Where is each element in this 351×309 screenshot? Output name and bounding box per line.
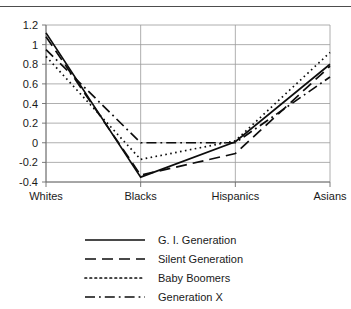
y-tick-label: 0.8 [23,58,38,70]
x-axis-tick-labels: WhitesBlacksHispanicsAsians [29,190,347,202]
legend-label-g-i-generation: G. I. Generation [158,234,236,246]
y-axis-tick-labels: -0.4-0.200.20.40.60.811.2 [19,19,38,188]
header-divider [0,6,351,7]
y-tick-label: 1.2 [23,19,38,31]
chart-canvas: -0.4-0.200.20.40.60.811.2 WhitesBlacksHi… [0,0,351,309]
legend-label-baby-boomers: Baby Boomers [158,272,231,284]
series-line-generation-x [46,50,330,143]
line-chart: -0.4-0.200.20.40.60.811.2 WhitesBlacksHi… [0,0,351,309]
gridlines [46,25,330,182]
data-series-group [46,33,330,177]
y-tick-label: -0.2 [19,156,38,168]
series-line-g-i-generation [46,33,330,177]
x-tick-label-asians: Asians [313,190,347,202]
chart-legend: G. I. GenerationSilent GenerationBaby Bo… [85,234,243,303]
y-tick-label: 0.4 [23,98,38,110]
y-tick-label: -0.4 [19,176,38,188]
y-tick-label: 1 [32,39,38,51]
y-tick-label: 0.2 [23,117,38,129]
x-tick-label-whites: Whites [29,190,63,202]
y-tick-label: 0 [32,137,38,149]
legend-label-silent-generation: Silent Generation [158,253,243,265]
x-tick-label-blacks: Blacks [124,190,157,202]
legend-label-generation-x: Generation X [158,291,223,303]
x-tick-label-hispanics: Hispanics [211,190,259,202]
y-tick-label: 0.6 [23,78,38,90]
